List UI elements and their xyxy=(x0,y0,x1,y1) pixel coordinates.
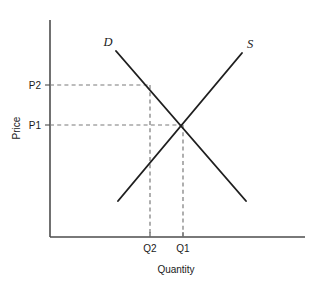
tick-label-p2: P2 xyxy=(29,80,42,91)
demand-curve-label: D xyxy=(102,35,112,49)
y-axis-title: Price xyxy=(11,116,22,139)
supply-demand-chart: D S P2 P1 Q2 Q1 Price Quantity xyxy=(0,0,318,281)
chart-canvas: D S P2 P1 Q2 Q1 Price Quantity xyxy=(0,0,318,281)
tick-label-q1: Q1 xyxy=(176,243,190,254)
supply-curve-label: S xyxy=(247,37,254,51)
tick-label-q2: Q2 xyxy=(143,243,157,254)
tick-label-p1: P1 xyxy=(29,120,42,131)
x-axis-title: Quantity xyxy=(157,264,194,275)
